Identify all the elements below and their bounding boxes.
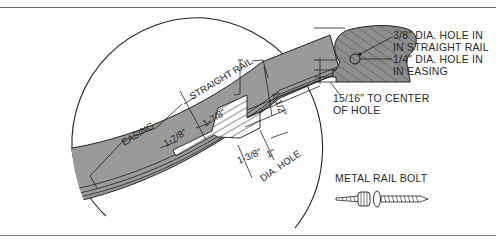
metal-rail-bolt-drawing [336, 191, 428, 207]
callout-1-4-hole-line2: IN EASING [393, 66, 448, 77]
callout-3-8-hole-line1: 3/8" DIA. HOLE IN [393, 30, 483, 41]
dim-e-label: 1" [264, 146, 276, 160]
callout-15-16-line2: OF HOLE [333, 105, 381, 116]
dia-hole-label: DIA. HOLE [258, 148, 303, 184]
callout-1-4-hole-line1: 1/4" DIA. HOLE IN [393, 54, 483, 65]
callout-3-8-hole-line2: IN STRAIGHT RAIL [393, 42, 489, 53]
callout-15-16-line1: 15/16" TO CENTER [333, 93, 429, 104]
metal-rail-bolt-label: METAL RAIL BOLT [335, 173, 427, 184]
